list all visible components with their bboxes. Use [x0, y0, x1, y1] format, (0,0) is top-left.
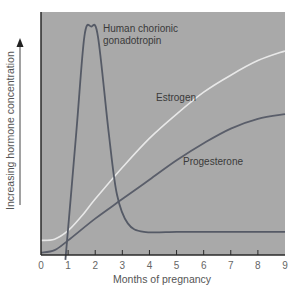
x-tick-label: 3	[115, 260, 129, 271]
progesterone-label: Progesterone	[183, 156, 243, 168]
x-tick-label: 2	[88, 260, 102, 271]
hcg-label-line2: gonadotropin	[103, 35, 178, 47]
x-tick-label: 1	[61, 260, 75, 271]
y-axis-label: Increasing hormone concentration	[4, 51, 16, 210]
x-tick-label: 6	[197, 260, 211, 271]
x-tick-label: 8	[251, 260, 265, 271]
plot-background	[41, 12, 285, 255]
x-tick-label: 9	[278, 260, 292, 271]
hcg-label-line1: Human chorionic	[103, 23, 178, 35]
x-axis-label: Months of pregnancy	[113, 273, 211, 285]
x-tick-label: 4	[142, 260, 156, 271]
estrogen-label: Estrogen	[156, 92, 196, 104]
x-tick-label: 0	[34, 260, 48, 271]
hcg-label: Human chorionic gonadotropin	[103, 23, 178, 47]
x-tick-label: 5	[170, 260, 184, 271]
arrow-up-icon	[17, 38, 24, 47]
x-tick-label: 7	[224, 260, 238, 271]
